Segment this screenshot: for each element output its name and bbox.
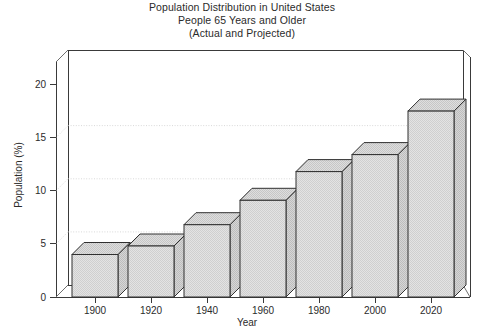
x-tick-label-1940: 1940 <box>196 305 219 316</box>
bar-1980 <box>296 160 354 297</box>
x-tick-label-1960: 1960 <box>252 305 275 316</box>
bar-1920 <box>128 234 186 297</box>
bar-1980-front <box>296 172 342 297</box>
bar-1900 <box>72 243 130 298</box>
bar-1960-front <box>240 200 286 297</box>
chart-title-line-2: People 65 Years and Older <box>178 14 306 26</box>
y-tick-label-5: 5 <box>40 238 46 249</box>
x-tick-label-1920: 1920 <box>140 305 163 316</box>
x-tick-label-1900: 1900 <box>84 305 107 316</box>
bar-1940-front <box>184 225 230 297</box>
x-axis-title: Year <box>237 317 258 328</box>
bar-1900-front <box>72 255 118 298</box>
y-tick-label-20: 20 <box>35 79 47 90</box>
y-tick-label-15: 15 <box>35 132 47 143</box>
chart-title-line-1: Population Distribution in United States <box>149 1 335 13</box>
bar-2020 <box>408 99 466 297</box>
y-tick-label-0: 0 <box>40 292 46 303</box>
x-tick-label-2020: 2020 <box>420 305 443 316</box>
bar-1960 <box>240 188 298 297</box>
y-axis-title: Population (%) <box>13 142 24 208</box>
bar-2020-side <box>454 99 466 297</box>
bar-1920-front <box>128 246 174 297</box>
x-tick-label-2000: 2000 <box>364 305 387 316</box>
x-tick-label-1980: 1980 <box>308 305 331 316</box>
bar-1940 <box>184 213 242 297</box>
chart-title-line-3: (Actual and Projected) <box>189 27 295 39</box>
y-tick-label-10: 10 <box>35 185 47 196</box>
bar-2000 <box>352 143 410 297</box>
chart-figure: Population Distribution in United States… <box>0 0 484 328</box>
bar-chart-svg: Population Distribution in United States… <box>0 0 484 328</box>
bar-2020-front <box>408 111 454 297</box>
bar-2000-front <box>352 155 398 297</box>
